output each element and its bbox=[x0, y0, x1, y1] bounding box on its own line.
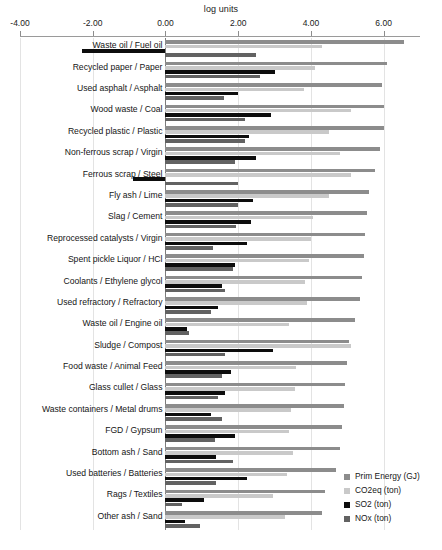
bar-prim-energy bbox=[165, 105, 383, 109]
bar-prim-energy bbox=[165, 62, 387, 66]
category-label: Non-ferrous scrap / Virgin bbox=[65, 148, 163, 157]
category-label: Sludge / Compost bbox=[94, 341, 162, 350]
category-label: Waste oil / Engine oil bbox=[83, 319, 163, 328]
bar-co2eq bbox=[165, 130, 329, 134]
bar-nox bbox=[165, 160, 234, 164]
bar-co2eq bbox=[165, 408, 290, 412]
chart-row: Food waste / Animal Feed bbox=[0, 359, 442, 380]
legend-item: Prim Energy (GJ) bbox=[344, 470, 442, 484]
category-label: Other ash / Sand bbox=[97, 512, 162, 521]
bar-co2eq bbox=[165, 88, 303, 92]
bar-so2 bbox=[165, 70, 274, 74]
x-tick-label: 0.00 bbox=[157, 18, 174, 28]
chart-row: Sludge / Compost bbox=[0, 337, 442, 358]
bar-nox bbox=[165, 96, 223, 100]
category-label: Waste oil / Fuel oil bbox=[93, 41, 163, 50]
chart-row: Recycled paper / Paper bbox=[0, 59, 442, 80]
legend-swatch-icon bbox=[344, 488, 350, 494]
bar-co2eq bbox=[165, 152, 340, 156]
bar-co2eq bbox=[165, 494, 272, 498]
bar-so2 bbox=[165, 455, 216, 459]
category-label: Bottom ash / Sand bbox=[92, 448, 163, 457]
bar-so2 bbox=[165, 391, 225, 395]
bar-co2eq bbox=[165, 173, 350, 177]
bar-nox bbox=[165, 118, 245, 122]
bar-prim-energy bbox=[165, 490, 325, 494]
bar-so2 bbox=[165, 370, 230, 374]
category-label: Waste containers / Metal drums bbox=[42, 405, 163, 414]
chart-row: Used asphalt / Asphalt bbox=[0, 81, 442, 102]
bar-prim-energy bbox=[165, 340, 349, 344]
bar-so2 bbox=[165, 156, 256, 160]
bar-nox bbox=[165, 331, 189, 335]
category-label: Fly ash / Lime bbox=[109, 191, 163, 200]
chart-row: Non-ferrous scrap / Virgin bbox=[0, 145, 442, 166]
category-label: FGD / Gypsum bbox=[105, 426, 162, 435]
bar-so2 bbox=[165, 520, 185, 524]
bar-so2 bbox=[165, 327, 187, 331]
category-label: Used asphalt / Asphalt bbox=[77, 84, 163, 93]
bar-co2eq bbox=[165, 109, 350, 113]
chart-row: Recycled plastic / Plastic bbox=[0, 124, 442, 145]
bar-co2eq bbox=[165, 366, 296, 370]
bar-prim-energy bbox=[165, 511, 321, 515]
bar-nox bbox=[165, 75, 260, 79]
bar-prim-energy bbox=[165, 383, 345, 387]
bar-nox bbox=[165, 396, 218, 400]
bar-nox bbox=[165, 203, 238, 207]
legend-label: CO2eq (ton) bbox=[355, 484, 401, 497]
x-tick-label: 6.00 bbox=[375, 18, 392, 28]
category-label: Wood waste / Coal bbox=[91, 105, 163, 114]
chart-row: Fly ash / Lime bbox=[0, 188, 442, 209]
bar-prim-energy bbox=[165, 147, 380, 151]
bar-prim-energy bbox=[165, 276, 361, 280]
category-label: Ferrous scrap / Steel bbox=[83, 170, 163, 179]
bar-nox bbox=[165, 374, 221, 378]
chart-row: Waste oil / Engine oil bbox=[0, 316, 442, 337]
bar-co2eq bbox=[165, 515, 285, 519]
category-label: Used batteries / Batteries bbox=[66, 469, 163, 478]
bar-co2eq bbox=[165, 451, 292, 455]
category-label: Used refractory / Refractory bbox=[57, 298, 163, 307]
bar-so2 bbox=[165, 498, 203, 502]
bar-prim-energy bbox=[165, 447, 340, 451]
bar-nox bbox=[165, 289, 225, 293]
legend-swatch-icon bbox=[344, 502, 350, 508]
bar-prim-energy bbox=[165, 126, 383, 130]
category-label: Spent pickle Liquor / HCl bbox=[68, 255, 163, 264]
bar-nox bbox=[165, 353, 225, 357]
bar-so2 bbox=[165, 477, 247, 481]
bar-co2eq bbox=[165, 280, 305, 284]
bar-nox bbox=[165, 182, 238, 186]
chart-row: Bottom ash / Sand bbox=[0, 444, 442, 465]
legend-label: SO2 (ton) bbox=[355, 498, 391, 511]
legend-swatch-icon bbox=[344, 516, 350, 522]
bar-prim-energy bbox=[165, 40, 403, 44]
bar-so2 bbox=[165, 220, 250, 224]
chart-row: Slag / Cement bbox=[0, 209, 442, 230]
bar-prim-energy bbox=[165, 233, 365, 237]
chart-row: Wood waste / Coal bbox=[0, 102, 442, 123]
bar-so2 bbox=[165, 199, 252, 203]
legend-label: NOx (ton) bbox=[355, 512, 391, 525]
bar-nox bbox=[165, 267, 232, 271]
bar-so2 bbox=[165, 263, 234, 267]
bar-so2 bbox=[165, 434, 234, 438]
bar-so2 bbox=[165, 135, 249, 139]
bar-prim-energy bbox=[165, 190, 369, 194]
plot-area: Waste oil / Fuel oilRecycled paper / Pap… bbox=[0, 38, 442, 530]
bar-nox bbox=[165, 460, 232, 464]
bar-so2 bbox=[165, 306, 218, 310]
category-label: Recycled paper / Paper bbox=[73, 63, 163, 72]
category-label: Food waste / Animal Feed bbox=[63, 362, 162, 371]
category-label: Reprocessed catalysts / Virgin bbox=[47, 234, 162, 243]
bar-co2eq bbox=[165, 387, 294, 391]
bar-co2eq bbox=[165, 473, 287, 477]
bar-prim-energy bbox=[165, 404, 343, 408]
category-label: Coolants / Ethylene glycol bbox=[64, 277, 163, 286]
x-tick-label: -4.00 bbox=[10, 18, 29, 28]
category-label: Rags / Textiles bbox=[107, 490, 163, 499]
bar-co2eq bbox=[165, 216, 312, 220]
chart-row: Reprocessed catalysts / Virgin bbox=[0, 231, 442, 252]
category-label: Recycled plastic / Plastic bbox=[68, 127, 163, 136]
